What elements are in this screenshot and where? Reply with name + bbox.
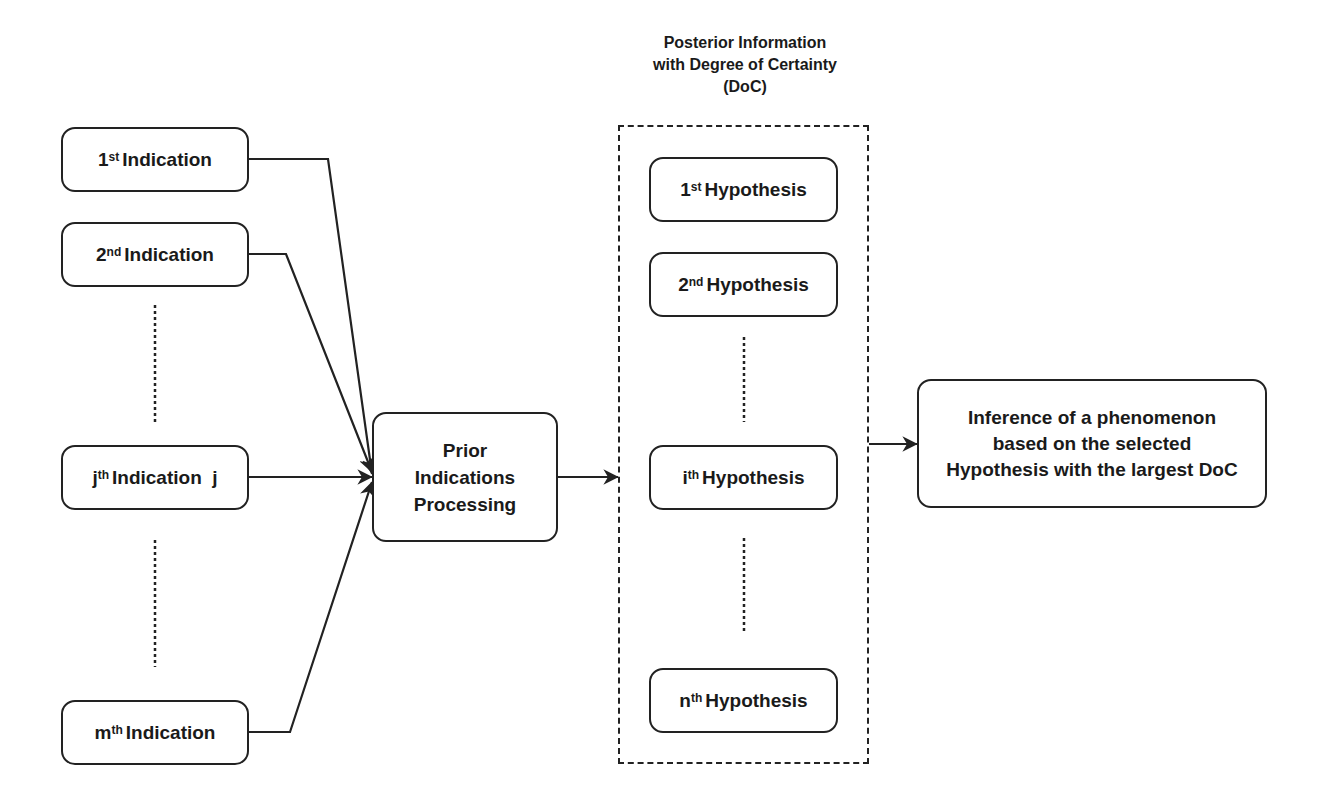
node-label-line-3: Hypothesis with the largest DoC: [946, 457, 1237, 483]
ordinal-suffix: nd: [107, 240, 122, 265]
node-label-line-1: Inference of a phenomenon: [968, 405, 1216, 431]
ordinal-suffix: st: [691, 175, 702, 200]
connector-indication-m: [248, 482, 372, 732]
prior-processing-node: Prior Indications Processing: [372, 412, 558, 542]
inference-node: Inference of a phenomenon based on the s…: [917, 379, 1267, 508]
node-label: Hypothesis: [702, 465, 804, 490]
node-label-line-3: Processing: [414, 491, 516, 518]
ordinal-suffix: th: [111, 718, 122, 743]
hypothesis-i-node: ithHypothesis: [649, 445, 838, 510]
ordinal: 1: [98, 147, 109, 172]
ordinal-suffix: nd: [689, 270, 704, 295]
indication-1-node: 1stIndication: [61, 127, 249, 192]
title-line-3: (DoC): [590, 76, 900, 98]
ordinal: m: [95, 720, 112, 745]
ordinal: 2: [96, 242, 107, 267]
node-label: Hypothesis: [706, 272, 808, 297]
node-label-line-1: Prior: [443, 437, 487, 464]
title-line-2: with Degree of Certainty: [590, 54, 900, 76]
ordinal-suffix: st: [109, 145, 120, 170]
hypothesis-2-node: 2ndHypothesis: [649, 252, 838, 317]
connector-indication-2: [248, 254, 372, 472]
ordinal-suffix: th: [688, 463, 699, 488]
node-label: Indication j: [112, 465, 218, 490]
ordinal-suffix: th: [691, 686, 702, 711]
ordinal-suffix: th: [98, 463, 109, 488]
node-label: Indication: [126, 720, 216, 745]
hypothesis-1-node: 1stHypothesis: [649, 157, 838, 222]
ordinal: n: [679, 688, 691, 713]
indication-2-node: 2ndIndication: [61, 222, 249, 287]
hypothesis-n-node: nthHypothesis: [649, 668, 838, 733]
node-label: Hypothesis: [705, 688, 807, 713]
title-line-1: Posterior Information: [590, 32, 900, 54]
ordinal: 2: [678, 272, 689, 297]
node-label: Indication: [122, 147, 212, 172]
node-label: Hypothesis: [704, 177, 806, 202]
indication-m-node: mthIndication: [61, 700, 249, 765]
indication-j-node: jthIndication j: [61, 445, 249, 510]
node-label: Indication: [124, 242, 214, 267]
node-label-line-2: based on the selected: [993, 431, 1192, 457]
node-label-line-2: Indications: [415, 464, 515, 491]
posterior-container-title: Posterior Information with Degree of Cer…: [590, 32, 900, 98]
ordinal: 1: [680, 177, 691, 202]
